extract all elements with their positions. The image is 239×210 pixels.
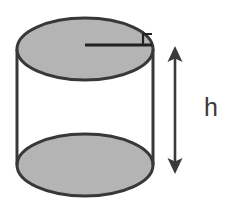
height-arrow-icon: [168, 46, 183, 174]
top-base-ellipse: [17, 18, 153, 80]
bottom-base-ellipse: [17, 134, 153, 196]
height-label: h: [204, 95, 218, 120]
cylinder-figure: h: [0, 0, 239, 210]
